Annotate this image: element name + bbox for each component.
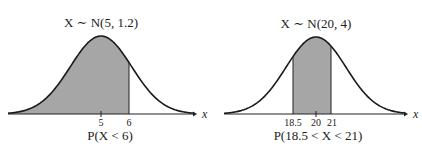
right-axis-label: x — [412, 107, 419, 121]
left-panel: X ∼ N(5, 1.2) 5 6 x P(X < 6) — [8, 15, 208, 143]
left-axis-label: x — [201, 107, 208, 121]
right-tick-label-18-5: 18.5 — [284, 117, 302, 128]
right-caption: P(18.5 < X < 21) — [274, 128, 363, 143]
right-tick-label-20: 20 — [311, 117, 321, 128]
right-axis-arrow-icon — [404, 112, 408, 117]
left-tick-label-5: 5 — [99, 117, 104, 128]
left-title: X ∼ N(5, 1.2) — [64, 15, 138, 30]
left-caption: P(X < 6) — [87, 128, 133, 143]
right-panel: X ∼ N(20, 4) 18.5 20 21 x P(18.5 < X < 2… — [224, 16, 419, 143]
right-title: X ∼ N(20, 4) — [281, 16, 352, 31]
left-tick-label-6: 6 — [127, 117, 132, 128]
normal-distribution-diagrams: X ∼ N(5, 1.2) 5 6 x P(X < 6) X ∼ N(20, 4… — [0, 0, 422, 151]
left-axis-arrow-icon — [193, 112, 197, 117]
left-shaded-area — [8, 36, 129, 114]
right-tick-label-21: 21 — [327, 117, 337, 128]
